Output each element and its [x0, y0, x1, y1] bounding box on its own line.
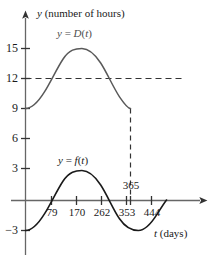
plot-canvas [0, 0, 213, 263]
y-axis-title: y (number of hours) [37, 8, 125, 19]
x-tick-label-170: 170 [64, 207, 90, 218]
x-tick-label-444: 444 [139, 207, 165, 218]
x-tick-label-353: 353 [114, 207, 140, 218]
curve-label-f-y: y [58, 154, 63, 166]
y-tick-label-minus-3: −3 [0, 224, 18, 236]
x-tick-label-79: 79 [40, 207, 64, 218]
y-tick-label-3: 3 [0, 162, 18, 174]
curve-label-f-eq: = [66, 154, 72, 166]
x-axis-title: t (days) [154, 228, 187, 239]
y-tick-label-12: 12 [0, 72, 18, 84]
x-tick-label-262: 262 [89, 207, 115, 218]
y-tick-label-15: 15 [0, 42, 18, 54]
curve-label-f: y = f(t) [58, 155, 88, 166]
y-tick-label-6: 6 [0, 132, 18, 144]
curve-label-D: y = D(t) [57, 28, 92, 39]
y-tick-label-9: 9 [0, 102, 18, 114]
curve-label-D-y: y [57, 27, 62, 39]
x-annotation-label-365: 365 [118, 180, 144, 191]
curve-label-D-eq: = [65, 27, 71, 39]
curve-label-D-fn: D [74, 27, 82, 39]
math-figure: y (number of hours) t (days) 15 12 9 6 3… [0, 0, 213, 263]
